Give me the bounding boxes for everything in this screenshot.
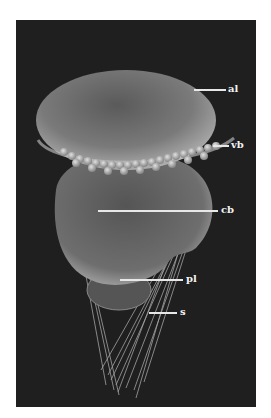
label-vb: vb (231, 140, 244, 150)
leader-line-pl (120, 279, 183, 281)
specimen-illustration (16, 20, 256, 407)
leader-line-al (194, 89, 226, 91)
leader-line-vb (213, 145, 229, 147)
micrograph-panel: al vb cb pl s (16, 20, 256, 407)
label-s: s (180, 307, 186, 317)
leader-line-s (149, 312, 177, 314)
label-pl: pl (186, 274, 197, 284)
label-cb: cb (221, 205, 234, 215)
label-al: al (228, 84, 238, 94)
leader-line-cb (98, 210, 218, 212)
